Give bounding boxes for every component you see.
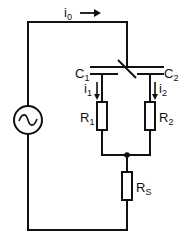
junction-dot (124, 152, 130, 158)
label-r2: R2 (159, 110, 173, 127)
i1-arrowhead (94, 94, 100, 100)
resistor-r1 (97, 102, 107, 130)
label-i2: i2 (159, 81, 167, 98)
i0-arrowhead (94, 9, 101, 17)
resistor-r2 (145, 102, 155, 130)
label-i1: i1 (84, 81, 92, 98)
sine-wave-icon (19, 115, 37, 125)
label-c2: C2 (164, 66, 178, 83)
label-rs: RS (136, 180, 151, 197)
label-r1: R1 (80, 110, 94, 127)
label-c1: C1 (75, 66, 89, 83)
circuit-diagram: i0 C1 C2 i1 i2 R1 R2 RS (0, 0, 189, 241)
wire-top (28, 22, 127, 106)
resistor-rs (122, 172, 132, 200)
i2-arrowhead (152, 94, 158, 100)
wire-merge (102, 130, 150, 155)
wire-bottom (28, 134, 127, 230)
label-i0: i0 (64, 5, 72, 22)
